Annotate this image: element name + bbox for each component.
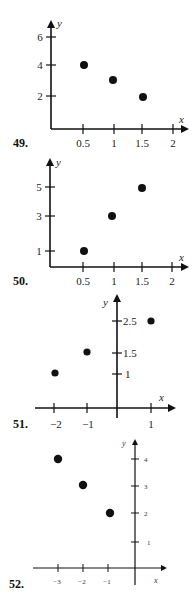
x-axis-label: x	[178, 251, 184, 263]
data-point	[54, 455, 62, 463]
plot-52: y x 4 3 2 1 −3 −2 −1 52.	[9, 439, 165, 591]
y-tick-label: 4	[144, 456, 148, 464]
data-point	[139, 93, 147, 101]
data-point	[80, 61, 88, 69]
y-axis-label: y	[121, 439, 126, 448]
x-tick-label: 2	[170, 137, 176, 149]
x-axis-label: x	[178, 113, 184, 125]
data-point	[79, 481, 87, 489]
x-tick-label: 2	[169, 275, 175, 287]
plot-49: y x 6 4 2 0.5 1 1.5 2 49.	[13, 17, 187, 150]
plot-51: y x 2.5 1.5 1 −2 −1 1 51.	[13, 296, 174, 431]
data-point	[108, 212, 116, 220]
x-tick-label: −2	[50, 418, 62, 430]
data-point	[80, 247, 88, 255]
problem-number: 50.	[13, 274, 28, 288]
problem-number: 52.	[9, 577, 24, 591]
x-tick-label: −2	[78, 578, 86, 586]
x-tick-label: 1.5	[135, 137, 149, 149]
x-axis-label: x	[153, 576, 158, 585]
y-axis-label: y	[56, 17, 62, 29]
x-axis-label: x	[158, 391, 164, 403]
y-tick-label: 1.5	[123, 347, 137, 359]
y-axis-label: y	[102, 296, 108, 308]
x-tick-label: 0.5	[76, 137, 90, 149]
x-tick-label: 1	[111, 275, 117, 287]
y-tick-label: 2	[37, 90, 43, 102]
x-tick-label: −1	[103, 578, 111, 586]
data-point	[106, 509, 114, 517]
problem-number: 51.	[13, 417, 28, 431]
y-tick-label: 1	[36, 245, 42, 257]
x-tick-label: 1	[148, 418, 154, 430]
y-axis-label: y	[55, 156, 61, 168]
scatter-plots-figure: y x 6 4 2 0.5 1 1.5 2 49. y x 5 3 1	[0, 0, 195, 606]
x-tick-label: −1	[82, 418, 94, 430]
x-tick-label: −3	[53, 578, 61, 586]
y-tick-label: 3	[36, 210, 42, 222]
y-tick-label: 5	[36, 181, 42, 193]
y-tick-label: 1	[147, 539, 151, 547]
y-tick-label: 2.5	[123, 315, 137, 327]
y-tick-label: 6	[37, 31, 43, 43]
data-point	[83, 348, 90, 355]
y-tick-label: 1	[125, 368, 131, 380]
data-point	[147, 317, 154, 324]
data-point	[109, 76, 117, 84]
y-tick-label: 4	[37, 59, 43, 71]
data-point	[138, 184, 146, 192]
problem-number: 49.	[13, 136, 28, 150]
x-tick-label: 1	[111, 137, 117, 149]
x-tick-label: 0.5	[76, 275, 90, 287]
data-point	[51, 369, 58, 376]
x-tick-label: 1.5	[135, 275, 149, 287]
y-tick-label: 3	[144, 483, 148, 491]
plot-50: y x 5 3 1 0.5 1 1.5 2 50.	[13, 156, 187, 288]
y-tick-label: 2	[144, 510, 148, 518]
